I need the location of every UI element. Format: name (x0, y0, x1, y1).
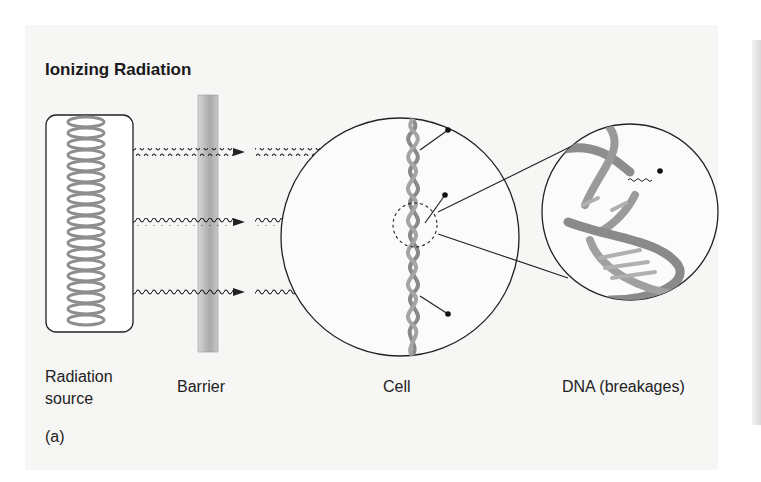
label-radiation-source: Radiation source (45, 367, 113, 409)
label-cell: Cell (383, 377, 411, 397)
panel-label: (a) (45, 427, 65, 447)
label-barrier: Barrier (177, 377, 225, 397)
radiation-source-icon (46, 115, 133, 332)
cell-icon (281, 100, 519, 360)
radiation-diagram (0, 0, 761, 482)
dna-breakage-icon (542, 124, 718, 350)
label-dna-breakages: DNA (breakages) (562, 377, 685, 397)
